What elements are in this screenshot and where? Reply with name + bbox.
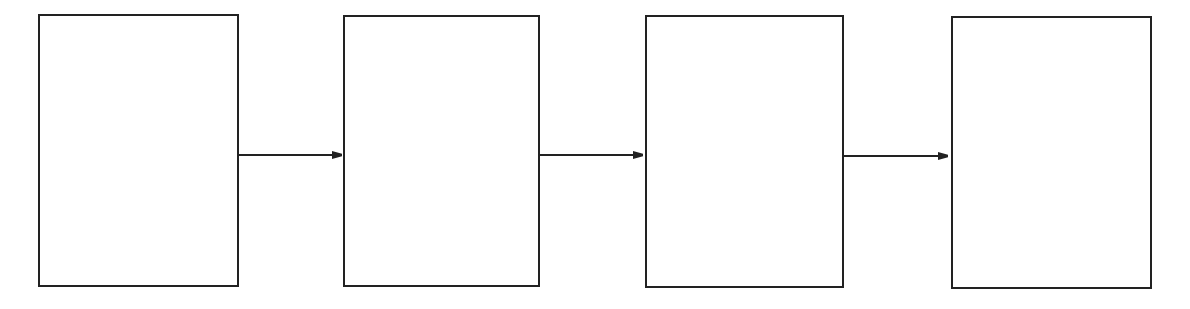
flow-box-4 — [952, 17, 1151, 288]
box-rect — [646, 16, 843, 287]
flow-diagram — [0, 0, 1190, 309]
flow-box-2 — [344, 16, 539, 286]
box-rect — [344, 16, 539, 286]
flow-box-3 — [646, 16, 843, 287]
box-rect — [39, 15, 238, 286]
box-rect — [952, 17, 1151, 288]
flow-box-1 — [39, 15, 238, 286]
